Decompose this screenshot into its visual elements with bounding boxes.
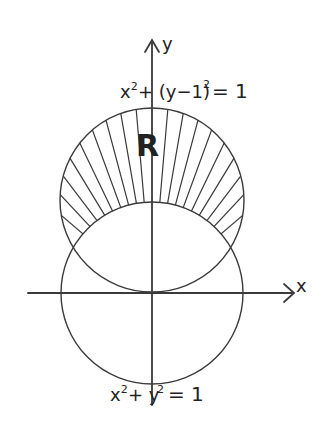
x-axis	[28, 284, 294, 302]
lower-circle-equation: x2 + y 2 = 1	[110, 382, 204, 406]
svg-text:= 1: = 1	[212, 79, 248, 103]
region-label: R	[136, 128, 159, 163]
diagram-canvas: x y R x2 + (y−1) 2 = 1 x2 + y 2 = 1	[0, 0, 325, 431]
svg-text:x2: x2	[110, 383, 128, 405]
svg-text:= 1: = 1	[168, 382, 204, 406]
svg-text:+ (y−1): + (y−1)	[138, 81, 210, 102]
x-axis-label: x	[296, 275, 307, 296]
upper-circle-equation: x2 + (y−1) 2 = 1	[120, 78, 248, 103]
svg-text:x2: x2	[120, 80, 138, 102]
svg-text:2: 2	[203, 78, 210, 91]
svg-text:2: 2	[157, 383, 164, 396]
y-axis-label: y	[162, 33, 173, 54]
svg-text:+ y: + y	[128, 384, 160, 405]
